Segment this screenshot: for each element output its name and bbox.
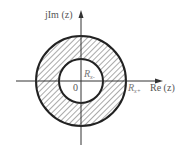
- z-plane-diagram: jIm (z) Re (z) 0 Rx- Rx+: [0, 0, 187, 155]
- origin-label: 0: [73, 82, 78, 93]
- imag-axis-label: jIm (z): [44, 9, 73, 21]
- real-axis-label: Re (z): [150, 82, 175, 94]
